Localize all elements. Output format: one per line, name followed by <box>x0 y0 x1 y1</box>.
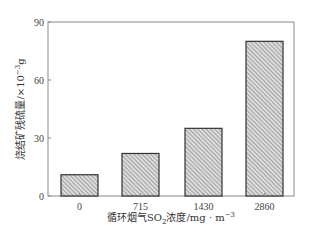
bars <box>61 41 283 196</box>
x-tick-label: 0 <box>77 201 82 212</box>
y-tick-label: 0 <box>39 191 44 202</box>
y-tick-label: 30 <box>34 133 44 144</box>
x-tick-label: 715 <box>133 201 148 212</box>
bar-chart: 0306090 071514302860 循环烟气SO2浓度/mg · m−3 … <box>0 0 311 239</box>
x-tick-label: 2860 <box>255 201 275 212</box>
y-tick-label: 90 <box>34 17 44 28</box>
y-axis-title: 烧结矿残硫量/×10−3g <box>14 58 26 160</box>
bar-1430 <box>185 128 222 196</box>
bar-0 <box>61 175 98 196</box>
x-axis-title: 循环烟气SO2浓度/mg · m−3 <box>107 211 235 226</box>
bar-715 <box>122 153 159 196</box>
x-tick-label: 1430 <box>194 201 214 212</box>
y-tick-label: 60 <box>34 75 44 86</box>
bar-2860 <box>246 41 283 196</box>
